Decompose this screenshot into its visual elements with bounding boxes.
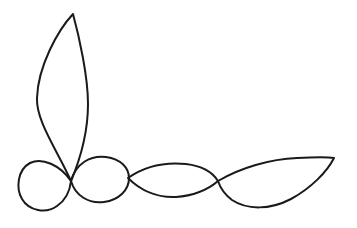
paper-background (0, 0, 357, 228)
line-drawing-figure (0, 0, 357, 228)
drawing-canvas (0, 0, 357, 228)
